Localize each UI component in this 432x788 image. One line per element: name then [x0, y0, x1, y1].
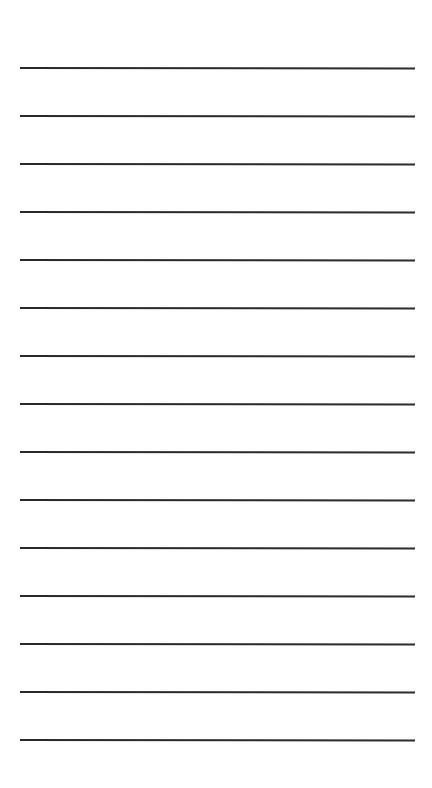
ruled-line — [20, 403, 415, 406]
ruled-line — [20, 499, 415, 502]
ruled-line — [20, 307, 415, 310]
ruled-line — [20, 211, 415, 214]
ruled-line — [20, 643, 415, 646]
ruled-line — [20, 547, 415, 550]
ruled-line — [20, 115, 415, 118]
ruled-line — [20, 451, 415, 454]
ruled-line — [20, 355, 415, 358]
ruled-line — [20, 67, 415, 70]
ruled-line — [20, 691, 415, 694]
lined-page — [0, 0, 432, 788]
ruled-line — [20, 595, 415, 598]
ruled-line — [20, 739, 415, 742]
ruled-line — [20, 163, 415, 166]
ruled-line — [20, 259, 415, 262]
